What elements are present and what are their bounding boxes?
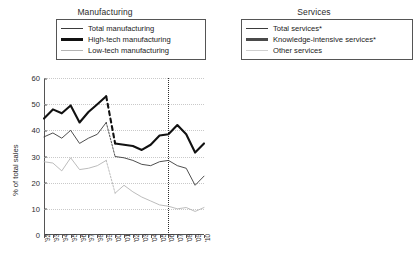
x-axis-tick-label: '09 (195, 234, 202, 242)
legend-manufacturing: Total manufacturing High-tech manufactur… (56, 19, 206, 60)
legend-label: Total manufacturing (88, 23, 154, 34)
legend-swatch-line-icon (61, 28, 83, 29)
x-axis-tick-label: '00 (115, 234, 122, 242)
y-axis-tick-label: 50 (32, 100, 44, 109)
legend-swatch-line-icon (246, 50, 268, 51)
series-line (44, 158, 106, 171)
series-line (115, 185, 204, 211)
series-break-segment (106, 122, 115, 156)
legend-item-knowledge-intensive-services: Knowledge-intensive services* (246, 34, 407, 45)
chart-title-services: Services (209, 7, 419, 17)
x-axis-tick-label: '06 (168, 234, 175, 242)
x-axis-tick-label: '95 (71, 234, 78, 242)
series-line (115, 125, 204, 152)
legend-swatch-line-icon (61, 50, 83, 51)
series-line (115, 157, 204, 186)
legend-swatch-line-icon (246, 38, 268, 41)
legend-label: Knowledge-intensive services* (273, 34, 376, 45)
x-axis-tick-label: '04 (151, 234, 158, 242)
legend-label: Low-tech manufacturing (88, 45, 169, 56)
x-axis-tick-label: '93 (53, 234, 60, 242)
figure-root: Manufacturing Total manufacturing High-t… (0, 0, 419, 272)
panel-manufacturing: Manufacturing Total manufacturing High-t… (0, 0, 210, 272)
legend-swatch-line-icon (61, 38, 83, 41)
x-axis-tick-label: '98 (97, 234, 104, 242)
legend-swatch-line-icon (246, 28, 268, 29)
series-break-segment (106, 160, 115, 193)
y-axis-label-manufacturing: % of total sales (11, 145, 20, 197)
legend-item-low-tech-manufacturing: Low-tech manufacturing (61, 45, 200, 56)
legend-label: Other services (273, 45, 322, 56)
x-axis-tick-label: '08 (186, 234, 193, 242)
y-axis-tick-label: 0 (36, 231, 44, 240)
series-line (44, 96, 106, 122)
series-layer (44, 78, 204, 235)
legend-item-high-tech-manufacturing: High-tech manufacturing (61, 34, 200, 45)
y-axis-tick-label: 20 (32, 178, 44, 187)
x-axis-tick-label: '03 (142, 234, 149, 242)
legend-label: Total services* (273, 23, 322, 34)
x-axis-tick-label: '97 (88, 234, 95, 242)
x-axis-tick-label: '96 (80, 234, 87, 242)
x-axis-tick-label: '92 (44, 234, 51, 242)
y-axis-tick-label: 40 (32, 126, 44, 135)
x-axis-tick-label: '07 (177, 234, 184, 242)
plot-area-manufacturing: 0102030405060'92'93'94'95'96'97'98'99'00… (44, 78, 204, 235)
series-line (44, 122, 106, 143)
y-axis-tick-label: 30 (32, 152, 44, 161)
series-break-segment (106, 96, 115, 143)
y-axis-tick-label: 10 (32, 204, 44, 213)
legend-item-other-services: Other services (246, 45, 407, 56)
x-axis-tick-label: '02 (133, 234, 140, 242)
legend-label: High-tech manufacturing (88, 34, 171, 45)
legend-item-total-services: Total services* (246, 23, 407, 34)
legend-services: Total services* Knowledge-intensive serv… (241, 19, 413, 60)
panel-services: Services Total services* Knowledge-inten… (209, 0, 419, 272)
x-axis-tick-label: '94 (62, 234, 69, 242)
x-axis-tick-label: '99 (106, 234, 113, 242)
x-axis-tick-label: '01 (124, 234, 131, 242)
x-axis-tick-label: '05 (160, 234, 167, 242)
chart-title-manufacturing: Manufacturing (0, 7, 210, 17)
y-axis-tick-label: 60 (32, 74, 44, 83)
legend-item-total-manufacturing: Total manufacturing (61, 23, 200, 34)
